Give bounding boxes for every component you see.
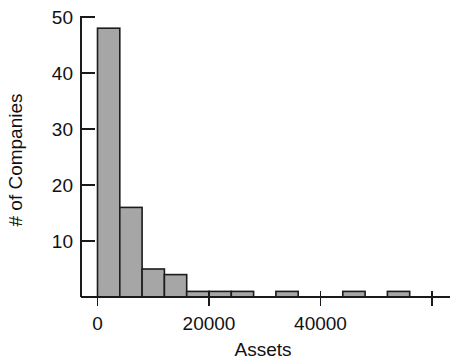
- y-tick-label: 30: [52, 119, 73, 140]
- y-tick-label: 40: [52, 63, 73, 84]
- x-axis-title: Assets: [234, 339, 291, 360]
- y-tick-label: 20: [52, 175, 73, 196]
- y-tick-label: 10: [52, 231, 73, 252]
- y-axis: 1020304050: [52, 7, 95, 297]
- y-axis-title: # of Companies: [5, 93, 26, 226]
- chart-canvas: 1020304050 02000040000 Assets # of Compa…: [0, 0, 456, 363]
- histogram-bar: [387, 291, 409, 297]
- x-tick-label: 0: [92, 313, 103, 334]
- y-tick-label: 50: [52, 7, 73, 28]
- y-ticks-group: 1020304050: [52, 7, 95, 252]
- x-axis: 02000040000: [81, 291, 450, 334]
- histogram-chart: 1020304050 02000040000 Assets # of Compa…: [0, 0, 456, 363]
- plot-area: [98, 28, 410, 297]
- x-tick-label: 40000: [294, 313, 347, 334]
- bars-group: [98, 28, 410, 297]
- histogram-bar: [231, 291, 253, 297]
- histogram-bar: [120, 207, 142, 297]
- histogram-bar: [164, 275, 186, 297]
- histogram-bar: [98, 28, 120, 297]
- x-tick-label: 20000: [183, 313, 236, 334]
- histogram-bar: [142, 269, 164, 297]
- histogram-bar: [276, 291, 298, 297]
- histogram-bar: [343, 291, 365, 297]
- histogram-bar: [209, 291, 231, 297]
- histogram-bar: [187, 291, 209, 297]
